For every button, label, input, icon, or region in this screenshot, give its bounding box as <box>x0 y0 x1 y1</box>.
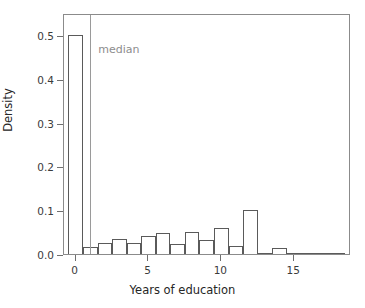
x-axis-tick <box>220 255 221 261</box>
median-label: median <box>98 43 139 56</box>
histogram-figure: 0.00.10.20.30.40.5 Density median 051015… <box>0 0 365 308</box>
histogram-bar <box>185 232 200 254</box>
y-axis-tick-label: 0.1 <box>37 205 54 217</box>
histogram-bar <box>331 253 346 254</box>
histogram-bar <box>301 253 316 254</box>
x-axis-tick-label: 10 <box>214 264 227 276</box>
x-axis-tick <box>147 255 148 261</box>
x-axis-tick <box>75 255 76 261</box>
y-axis-tick-label: 0.2 <box>37 161 54 173</box>
plot-frame: median <box>63 14 350 255</box>
y-axis-tick-label: 0.4 <box>37 74 54 86</box>
y-axis: 0.00.10.20.30.40.5 <box>0 14 63 255</box>
x-axis-tick-label: 5 <box>144 264 151 276</box>
histogram-bar <box>199 240 214 254</box>
histogram-bar <box>170 244 185 254</box>
y-axis-tick-label: 0.0 <box>37 249 54 261</box>
histogram-bar <box>287 253 302 254</box>
histogram-bar <box>127 243 142 254</box>
y-axis-title: Density <box>1 88 15 132</box>
histogram-bar <box>112 239 127 254</box>
histogram-bar <box>141 236 156 254</box>
histogram-bar <box>229 246 244 254</box>
histogram-bar <box>272 248 287 254</box>
median-line <box>90 15 91 254</box>
y-axis-tick-label: 0.3 <box>37 118 54 130</box>
y-axis-tick-label: 0.5 <box>37 30 54 42</box>
histogram-bar <box>316 253 331 254</box>
histogram-bar <box>156 233 171 254</box>
histogram-bar <box>243 210 258 254</box>
histogram-bar <box>68 35 83 254</box>
x-axis: 051015 <box>63 255 350 281</box>
histogram-bar <box>214 228 229 254</box>
histogram-bar <box>98 243 113 254</box>
histogram-bar <box>258 253 273 254</box>
plot-area: median <box>64 15 349 254</box>
x-axis-tick <box>293 255 294 261</box>
x-axis-tick-label: 15 <box>286 264 299 276</box>
x-axis-title: Years of education <box>0 283 365 297</box>
x-axis-tick-label: 0 <box>71 264 78 276</box>
